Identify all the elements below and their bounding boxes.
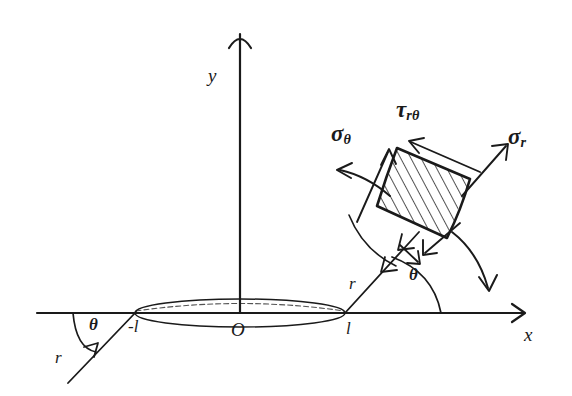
tau-rtheta-subscript: rθ xyxy=(406,107,419,123)
diagram-canvas: y x O -l l θ r θ r σθ τrθ σr xyxy=(0,0,572,396)
radius-label-left: r xyxy=(55,349,62,366)
crack-left-tip-label: -l xyxy=(128,318,138,335)
sigma-r-arrow-lower xyxy=(452,232,497,291)
crack-right-tip-label: l xyxy=(346,320,351,337)
tau-rtheta-symbol: τ xyxy=(396,97,406,122)
sigma-r-symbol: σ xyxy=(508,124,520,149)
sigma-theta-arc-lower xyxy=(349,215,396,266)
stress-element xyxy=(360,135,490,255)
radius-label-right: r xyxy=(349,275,356,292)
sigma-theta-symbol: σ xyxy=(331,121,343,146)
sigma-theta-label: σθ xyxy=(331,122,351,146)
theta-label-left: θ xyxy=(89,316,98,333)
x-axis xyxy=(37,304,525,322)
y-axis-label: y xyxy=(208,66,216,85)
x-axis-label: x xyxy=(524,325,532,344)
y-axis xyxy=(229,34,251,313)
sigma-r-subscript: r xyxy=(520,134,526,150)
polar-ray-left xyxy=(68,312,136,383)
sigma-r-label: σr xyxy=(508,125,526,149)
sigma-r-arrow xyxy=(462,144,508,196)
sigma-theta-subscript: θ xyxy=(343,131,351,147)
theta-label-right: θ xyxy=(409,266,418,283)
tau-rtheta-label: τrθ xyxy=(396,98,420,122)
polar-ray-right xyxy=(345,232,441,313)
figure-svg xyxy=(0,0,572,396)
origin-label: O xyxy=(231,320,245,339)
